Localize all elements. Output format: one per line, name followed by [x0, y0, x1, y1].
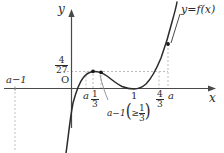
y-axis-arrowhead	[68, 9, 74, 17]
function-graph-figure: y x O y=f(x) 4 27 a−1 a 1 3 1 4 3 a a−1(…	[0, 0, 224, 153]
x-tick-label-a-minus-1: a−1	[6, 75, 27, 85]
curve-label: y=f(x)	[181, 4, 215, 15]
annotation-open-paren: (	[126, 102, 132, 121]
point-local-maximum	[91, 69, 95, 73]
y-value-denominator: 27	[55, 65, 68, 75]
x-tick-label-one-third: 1 3	[91, 90, 99, 109]
annotation-lead: a−1	[107, 108, 126, 118]
four-thirds-numerator: 4	[156, 90, 164, 99]
y-value-4-27: 4 27	[55, 56, 68, 75]
x-tick-label-a-left: a	[83, 91, 89, 101]
point-at-a	[166, 42, 170, 46]
x-tick-label-four-thirds: 4 3	[156, 90, 164, 109]
x-axis-label: x	[209, 92, 216, 104]
y-value-numerator: 4	[58, 56, 66, 65]
one-third-denominator: 3	[91, 99, 99, 109]
one-third-numerator: 1	[91, 90, 99, 99]
function-curve	[66, 2, 177, 153]
graph-canvas	[0, 0, 224, 153]
four-thirds-denominator: 3	[156, 99, 164, 109]
point-a-minus-1	[99, 70, 103, 74]
annotation-a-minus-1-ge-one-third: a−1(≥ 1 3 )	[107, 104, 151, 123]
origin-label: O	[61, 75, 69, 85]
x-tick-label-a-right: a	[168, 91, 174, 101]
annotation-close-paren: )	[145, 102, 151, 121]
y-axis-label: y	[58, 3, 65, 15]
annotation-relation: ≥	[132, 108, 140, 118]
x-tick-label-one: 1	[131, 91, 137, 101]
